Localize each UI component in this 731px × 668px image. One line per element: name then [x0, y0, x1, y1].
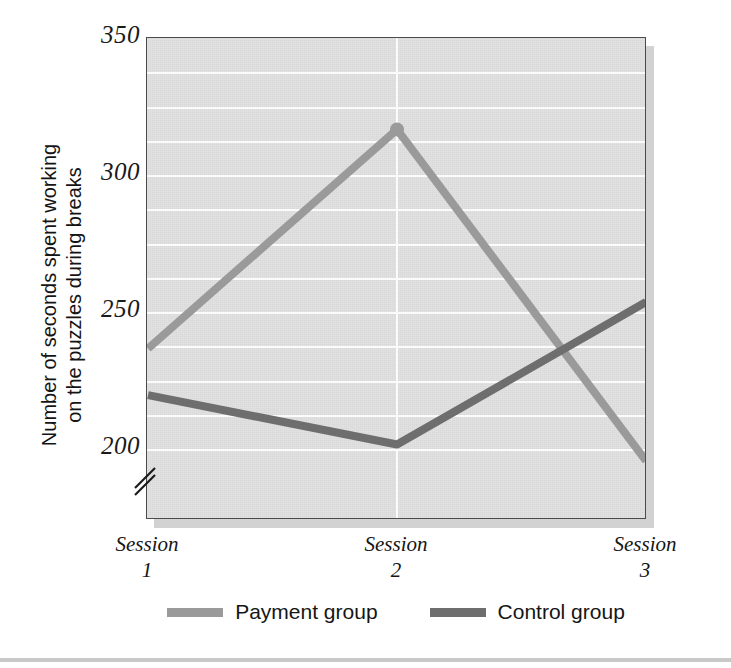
legend-entry-1[interactable]: Control group — [430, 600, 625, 624]
x-tick-word: Session — [77, 531, 217, 557]
x-tick-number: 2 — [326, 557, 466, 583]
series-lines — [147, 38, 646, 519]
x-tick-number: 3 — [575, 557, 715, 583]
x-tick-number: 1 — [77, 557, 217, 583]
x-tick-word: Session — [326, 531, 466, 557]
y-axis-title-line-2: on the puzzles during breaks — [62, 85, 87, 505]
y-axis-title: Number of seconds spent working on the p… — [37, 85, 87, 505]
chart-page: 200250300350 Number of seconds spent wor… — [0, 0, 731, 668]
legend-label: Payment group — [235, 600, 377, 624]
legend-swatch-icon — [430, 608, 486, 617]
x-tick-word: Session — [575, 531, 715, 557]
y-tick-label-350: 350 — [76, 21, 140, 49]
legend-swatch-icon — [167, 608, 223, 617]
x-tick-label-session-3: Session3 — [575, 531, 715, 583]
x-tick-label-session-1: Session1 — [77, 531, 217, 583]
series-line-1 — [148, 302, 646, 444]
plot-area — [146, 37, 646, 519]
chart-legend: Payment groupControl group — [146, 600, 646, 624]
page-bottom-rule — [0, 658, 731, 662]
data-point-marker — [390, 122, 404, 136]
y-axis-title-line-1: Number of seconds spent working — [37, 85, 62, 505]
axis-break-icon — [131, 462, 161, 498]
legend-label: Control group — [498, 600, 625, 624]
legend-entry-0[interactable]: Payment group — [167, 600, 377, 624]
x-tick-label-session-2: Session2 — [326, 531, 466, 583]
